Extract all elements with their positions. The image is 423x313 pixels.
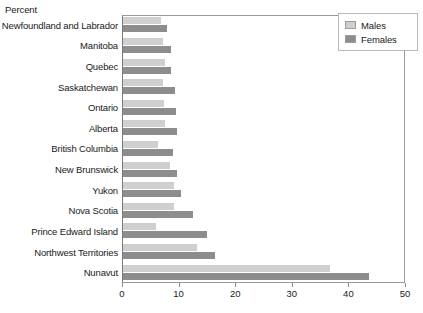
legend-swatch-icon	[345, 35, 356, 43]
chart-legend: MalesFemales	[338, 13, 418, 51]
chart-row: Nunavut	[0, 262, 423, 283]
category-label: Ontario	[0, 102, 118, 113]
chart-row: Ontario	[0, 97, 423, 118]
bar-chart: Percent Newfoundland and LabradorManitob…	[0, 0, 423, 313]
bar-males	[123, 100, 164, 107]
category-label: Quebec	[0, 61, 118, 72]
chart-row: Saskatchewan	[0, 77, 423, 98]
category-label: New Brunswick	[0, 164, 118, 175]
bar-females	[123, 25, 167, 32]
x-tick-label: 40	[343, 288, 354, 299]
bar-females	[123, 67, 171, 74]
x-tick-mark	[235, 283, 236, 287]
chart-row: Yukon	[0, 180, 423, 201]
category-label: British Columbia	[0, 143, 118, 154]
bar-males	[123, 17, 161, 24]
category-label: Saskatchewan	[0, 82, 118, 93]
category-label: Nova Scotia	[0, 205, 118, 216]
bar-males	[123, 38, 163, 45]
bar-males	[123, 59, 165, 66]
bar-females	[123, 108, 176, 115]
x-tick-mark	[292, 283, 293, 287]
bar-females	[123, 252, 215, 259]
bar-males	[123, 203, 174, 210]
bar-females	[123, 46, 171, 53]
category-label: Newfoundland and Labrador	[0, 20, 118, 31]
bar-males	[123, 265, 330, 272]
x-tick-label: 20	[230, 288, 241, 299]
bar-males	[123, 120, 165, 127]
bar-males	[123, 141, 158, 148]
category-label: Alberta	[0, 123, 118, 134]
chart-row: Nova Scotia	[0, 201, 423, 222]
x-tick-mark	[348, 283, 349, 287]
bar-males	[123, 223, 156, 230]
x-tick-label: 30	[287, 288, 298, 299]
bar-females	[123, 273, 369, 280]
x-tick-mark	[179, 283, 180, 287]
category-label: Northwest Territories	[0, 247, 118, 258]
bar-males	[123, 182, 174, 189]
x-tick-mark	[122, 283, 123, 287]
bar-males	[123, 79, 163, 86]
bar-females	[123, 231, 207, 238]
category-label: Manitoba	[0, 40, 118, 51]
category-label: Nunavut	[0, 267, 118, 278]
chart-row: Alberta	[0, 118, 423, 139]
x-tick-label: 0	[119, 288, 124, 299]
x-tick-label: 10	[173, 288, 184, 299]
bar-females	[123, 149, 173, 156]
bar-females	[123, 170, 177, 177]
bar-females	[123, 128, 177, 135]
bar-females	[123, 190, 181, 197]
category-label: Yukon	[0, 185, 118, 196]
bar-females	[123, 87, 175, 94]
category-label: Prince Edward Island	[0, 226, 118, 237]
x-tick-mark	[405, 283, 406, 287]
legend-swatch-icon	[345, 21, 356, 29]
legend-item-females: Females	[345, 33, 411, 45]
bar-males	[123, 162, 170, 169]
chart-row: Northwest Territories	[0, 242, 423, 263]
chart-row: New Brunswick	[0, 159, 423, 180]
bar-males	[123, 244, 197, 251]
chart-row: Prince Edward Island	[0, 221, 423, 242]
bar-females	[123, 211, 193, 218]
chart-row: British Columbia	[0, 139, 423, 160]
legend-item-males: Males	[345, 19, 411, 31]
legend-label: Males	[361, 20, 386, 31]
legend-label: Females	[361, 34, 397, 45]
x-tick-label: 50	[400, 288, 411, 299]
x-axis: 01020304050	[122, 283, 405, 309]
y-axis-caption: Percent	[5, 4, 37, 15]
chart-row: Quebec	[0, 56, 423, 77]
